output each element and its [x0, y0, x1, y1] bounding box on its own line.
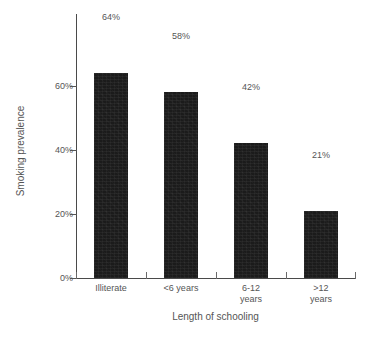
x-tick-3: [286, 272, 287, 279]
bar-chart: 0% 20% 40% 60% 64% 58% 42% 21% Illiterat…: [0, 0, 369, 340]
y-tick-label-20: 20%: [55, 210, 73, 219]
y-tick-label-0: 0%: [60, 274, 73, 283]
x-category-label-illiterate: Illiterate: [81, 283, 141, 294]
y-axis-line: [76, 14, 77, 279]
x-tick-0: [76, 272, 77, 279]
x-tick-2: [216, 272, 217, 279]
bar-value-label-lt-6-years: 58%: [151, 31, 211, 41]
bar-lt-6-years[interactable]: [164, 92, 198, 278]
x-axis-title: Length of schooling: [76, 311, 355, 323]
bar-6-12-years[interactable]: [234, 143, 268, 278]
y-tick-label-40: 40%: [55, 146, 73, 155]
bar-gt-12-years[interactable]: [304, 211, 338, 278]
bar-value-label-gt-12-years: 21%: [291, 150, 351, 160]
x-category-label-6-12-years: 6-12 years: [221, 283, 281, 304]
x-tick-1: [146, 272, 147, 279]
bar-value-label-illiterate: 64%: [81, 12, 141, 22]
y-tick-label-60: 60%: [55, 82, 73, 91]
bar-illiterate[interactable]: [94, 73, 128, 278]
x-category-label-lt-6-years: <6 years: [151, 283, 211, 294]
x-category-label-gt-12-years: >12 years: [291, 283, 351, 304]
x-tick-4: [355, 272, 356, 279]
y-axis-title: Smoking prevalence: [14, 71, 28, 231]
bar-value-label-6-12-years: 42%: [221, 82, 281, 92]
